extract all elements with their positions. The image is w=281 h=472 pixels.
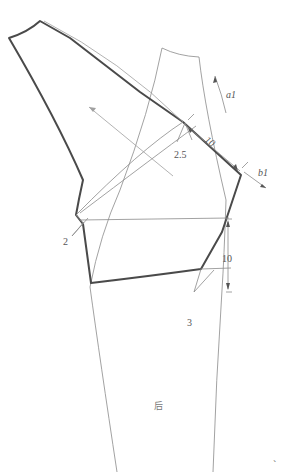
svg-text:10: 10 [203,134,218,149]
dimension-shoulder-10: 10 [184,114,248,171]
arrow-a1-icon: a1 [213,76,236,113]
pattern-piece [9,21,241,283]
svg-text:10: 10 [222,253,232,264]
corner-mark: ` [273,459,276,470]
pattern-diagram: 10 b1 a1 10 2.5 2 3 后 ` [0,0,281,472]
svg-text:b1: b1 [258,167,268,178]
svg-text:a1: a1 [226,89,236,100]
arrow-b1-icon: b1 [244,167,268,188]
label-back-panel: 后 [154,401,163,411]
grain-arrow-icon [89,107,173,176]
label-3: 3 [187,317,192,328]
label-2-5: 2.5 [174,149,187,160]
label-2: 2 [63,236,68,247]
